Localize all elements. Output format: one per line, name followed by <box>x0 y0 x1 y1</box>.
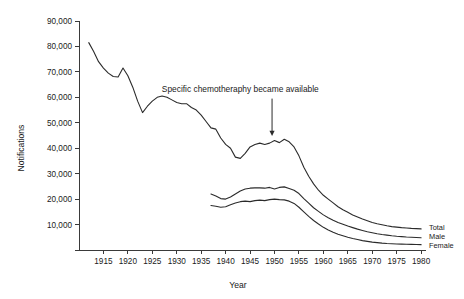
series-line-male <box>211 187 421 238</box>
x-axis-title: Year <box>229 280 247 290</box>
series-line-female <box>211 199 421 245</box>
y-axis-title: Notifications <box>16 125 26 172</box>
line-chart-svg: 10,00020,00030,00040,00050,00060,00070,0… <box>0 0 464 299</box>
y-tick-label-80000: 80,000 <box>47 42 72 51</box>
annotation-text: Specific chemotheraphy became available <box>162 84 319 94</box>
chart-container: 10,00020,00030,00040,00050,00060,00070,0… <box>0 0 464 299</box>
y-tick-labels-group: 10,00020,00030,00040,00050,00060,00070,0… <box>47 17 72 230</box>
x-tick-label-1980: 1980 <box>412 257 431 266</box>
y-tick-label-20000: 20,000 <box>47 195 72 204</box>
x-tick-label-1940: 1940 <box>217 257 236 266</box>
annotation-arrow-head <box>269 131 274 136</box>
y-tick-label-60000: 60,000 <box>47 93 72 102</box>
x-tick-label-1920: 1920 <box>119 257 138 266</box>
x-tick-label-1925: 1925 <box>143 257 162 266</box>
x-tick-label-1915: 1915 <box>94 257 113 266</box>
annotation-group: Specific chemotheraphy became available <box>162 84 319 136</box>
y-tick-label-70000: 70,000 <box>47 68 72 77</box>
x-tick-label-1970: 1970 <box>363 257 382 266</box>
x-tick-label-1955: 1955 <box>290 257 309 266</box>
x-tick-label-1950: 1950 <box>265 257 284 266</box>
axes-group <box>75 21 426 255</box>
y-tick-label-50000: 50,000 <box>47 119 72 128</box>
y-tick-label-10000: 10,000 <box>47 221 72 230</box>
legend-label-total: Total <box>429 223 445 232</box>
x-tick-label-1960: 1960 <box>314 257 333 266</box>
series-group <box>89 43 421 245</box>
x-tick-labels-group: 1915192019251930193519401945195019551960… <box>94 257 430 266</box>
x-tick-label-1945: 1945 <box>241 257 260 266</box>
legend-label-female: Female <box>429 241 454 250</box>
x-tick-label-1935: 1935 <box>192 257 211 266</box>
y-tick-label-30000: 30,000 <box>47 170 72 179</box>
x-tick-label-1930: 1930 <box>168 257 187 266</box>
x-tick-label-1965: 1965 <box>339 257 358 266</box>
y-tick-label-90000: 90,000 <box>47 17 72 26</box>
x-tick-label-1975: 1975 <box>388 257 407 266</box>
y-tick-label-40000: 40,000 <box>47 144 72 153</box>
legend-group: TotalMaleFemale <box>429 223 454 250</box>
axis-lines <box>79 21 426 251</box>
